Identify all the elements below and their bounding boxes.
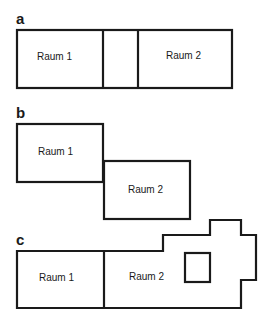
panel-a: a Raum 1 Raum 2	[16, 10, 232, 88]
panel-c: c Raum 1 Raum 2	[16, 220, 256, 308]
panel-a-room-1-label: Raum 1	[37, 51, 72, 62]
panel-letter-a: a	[16, 10, 25, 27]
panel-a-room-2-label: Raum 2	[166, 50, 201, 61]
panel-b-room-2-label: Raum 2	[128, 184, 163, 195]
panel-c-outline	[17, 220, 256, 308]
panel-letter-b: b	[16, 104, 25, 121]
panel-c-room-1-label: Raum 1	[39, 272, 74, 283]
panel-c-room-2-label: Raum 2	[129, 271, 164, 282]
room-adjacency-diagram: a Raum 1 Raum 2 b Raum 1 Raum 2 c Raum 1…	[0, 0, 274, 322]
panel-c-inner-square	[185, 253, 210, 282]
panel-letter-c: c	[16, 231, 24, 248]
panel-b-room-1-label: Raum 1	[38, 146, 73, 157]
panel-b: b Raum 1 Raum 2	[16, 104, 190, 219]
